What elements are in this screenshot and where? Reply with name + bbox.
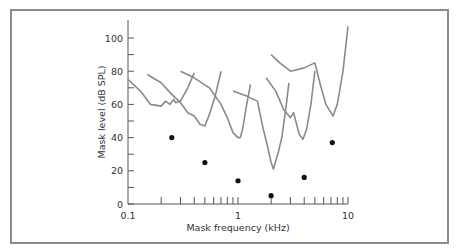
y-tick-label: 20 [111, 165, 123, 176]
x-axis-title: Mask frequency (kHz) [186, 222, 289, 233]
tuning-curve [147, 71, 221, 126]
probe-dot [302, 175, 307, 180]
tuning-curves [128, 26, 348, 169]
tuning-curve-chart: 0204060801000.1110 Mask frequency (kHz) … [0, 0, 457, 251]
y-tick-label: 40 [111, 132, 123, 143]
y-tick-label: 80 [111, 66, 123, 77]
probe-dot [202, 160, 207, 165]
tuning-curve [271, 26, 348, 116]
y-axis-title: Mask level (dB SPL) [96, 65, 107, 158]
probe-points [169, 135, 335, 198]
probe-dot [330, 140, 335, 145]
y-tick-label: 0 [117, 199, 123, 210]
tuning-curve [128, 73, 194, 106]
x-tick-label: 0.1 [120, 210, 135, 221]
x-tick-label: 1 [235, 210, 241, 221]
x-tick-label: 10 [342, 210, 354, 221]
probe-dot [169, 135, 174, 140]
y-tick-label: 100 [105, 33, 123, 44]
y-tick-label: 60 [111, 99, 123, 110]
tuning-curve [266, 71, 315, 139]
tuning-curve [233, 83, 289, 169]
probe-dot [235, 178, 240, 183]
axes: 0204060801000.1110 [105, 20, 354, 221]
probe-dot [269, 193, 274, 198]
